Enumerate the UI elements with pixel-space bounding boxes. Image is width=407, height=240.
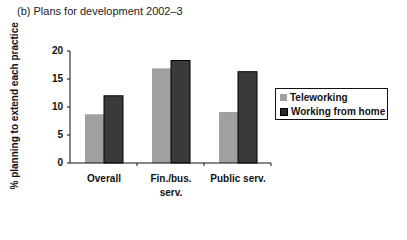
x-tick-label: Overall [71, 172, 137, 186]
bar-working-from-home [238, 72, 257, 163]
legend-label: Working from home [291, 106, 385, 117]
legend: Teleworking Working from home [275, 88, 388, 120]
bar-teleworking [219, 112, 238, 163]
bar-working-from-home [171, 61, 190, 163]
y-tick-label: 10 [47, 101, 63, 112]
legend-label: Teleworking [290, 92, 348, 103]
y-tick-label: 0 [47, 157, 63, 168]
bar-teleworking [85, 114, 104, 163]
y-tick-label: 5 [47, 129, 63, 140]
legend-item-teleworking: Teleworking [280, 92, 348, 103]
legend-swatch-teleworking [280, 94, 287, 101]
y-tick-label: 20 [47, 45, 63, 56]
bar-working-from-home [104, 96, 123, 163]
y-tick-label: 15 [47, 73, 63, 84]
bar-teleworking [152, 68, 171, 163]
x-tick-label: Public serv. [205, 172, 271, 186]
legend-item-working-from-home: Working from home [280, 106, 385, 117]
bars [85, 61, 257, 163]
x-tick-label: Fin./bus.serv. [138, 172, 204, 200]
legend-swatch-working-from-home [280, 108, 288, 116]
